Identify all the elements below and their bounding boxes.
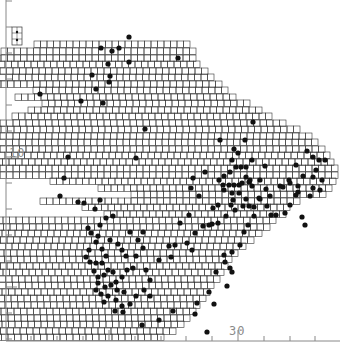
distribution-map bbox=[0, 0, 349, 348]
bottom-axis-label: 30 bbox=[229, 324, 245, 338]
axes bbox=[6, 0, 340, 341]
grid-squares bbox=[0, 41, 338, 341]
legend-box bbox=[12, 27, 22, 45]
left-axis-label: 10 bbox=[9, 146, 25, 160]
